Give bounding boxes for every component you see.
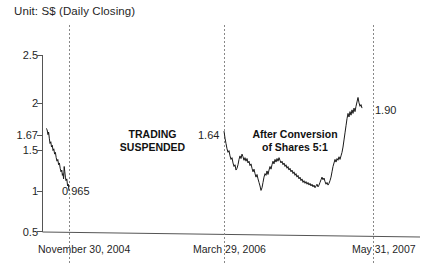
plot-area: [0, 0, 431, 279]
series-line-pre-suspension: [46, 128, 69, 190]
series-line-after-conversion: [224, 97, 362, 190]
stock-price-chart: Unit: S$ (Daily Closing) 2.5 2 1.67 1.5 …: [0, 0, 431, 279]
x-axis-line: [43, 232, 421, 237]
